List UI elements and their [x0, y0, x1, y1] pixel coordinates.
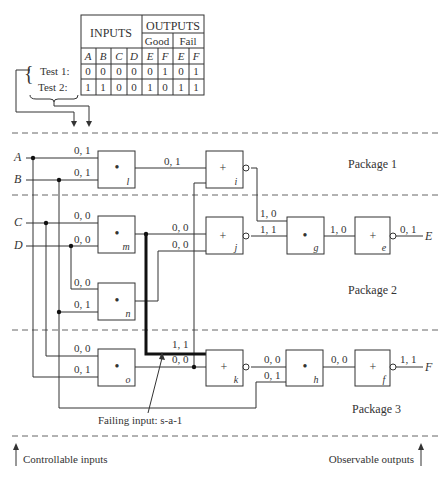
svg-text:•: • [115, 293, 120, 308]
svg-text:+: + [220, 229, 227, 243]
svg-text:0: 0 [85, 65, 91, 77]
svg-text:1, 1: 1, 1 [260, 223, 277, 235]
input-C: C [14, 215, 23, 229]
gate-f: + f [355, 350, 396, 386]
outputs-header: OUTPUTS [146, 19, 200, 33]
arrow-up-icon [418, 443, 424, 450]
svg-text:0, 0: 0, 0 [74, 233, 91, 245]
svg-text:1: 1 [193, 81, 199, 93]
svg-text:k: k [234, 374, 239, 385]
svg-text:0, 0: 0, 0 [172, 221, 189, 233]
svg-text:0: 0 [147, 65, 153, 77]
svg-text:0, 1: 0, 1 [74, 298, 91, 310]
svg-text:0, 1: 0, 1 [264, 369, 281, 381]
controllable-inputs-label: Controllable inputs [23, 453, 108, 465]
svg-text:•: • [303, 228, 308, 243]
svg-text:0, 0: 0, 0 [264, 353, 281, 365]
svg-text:B: B [100, 50, 107, 62]
svg-text:h: h [314, 374, 319, 385]
svg-text:l: l [127, 176, 130, 187]
svg-text:g: g [314, 242, 319, 253]
svg-text:0, 1: 0, 1 [74, 363, 91, 375]
svg-text:0, 1: 0, 1 [74, 166, 91, 178]
good-header: Good [145, 35, 170, 47]
svg-text:o: o [126, 374, 131, 385]
brace-icon: { [24, 62, 34, 84]
test2-label: Test 2: [38, 81, 67, 93]
svg-text:F: F [161, 50, 169, 62]
inputs-header: INPUTS [90, 26, 132, 40]
svg-text:•: • [115, 226, 120, 241]
observable-outputs-label: Observable outputs [329, 453, 414, 465]
arrow-down-icon [71, 121, 77, 127]
svg-text:1, 1: 1, 1 [172, 338, 189, 350]
svg-text:0, 0: 0, 0 [74, 342, 91, 354]
test-table: INPUTS OUTPUTS Good Fail A B C D E F E F… [16, 15, 204, 127]
svg-text:1, 1: 1, 1 [400, 353, 417, 365]
svg-text:1, 0: 1, 0 [260, 207, 277, 219]
svg-text:i: i [235, 176, 238, 187]
gate-g: • g [287, 217, 324, 254]
gate-l: • l [98, 151, 135, 188]
package-2-label: Package 2 [348, 283, 397, 297]
svg-text:+: + [370, 229, 377, 243]
gate-i: + i [206, 151, 249, 188]
svg-text:0, 0: 0, 0 [74, 276, 91, 288]
svg-text:•: • [303, 359, 308, 374]
svg-text:C: C [115, 50, 123, 62]
svg-text:+: + [220, 161, 227, 175]
svg-text:E: E [146, 50, 154, 62]
svg-text:1: 1 [178, 81, 184, 93]
arrow-down-icon [86, 121, 92, 127]
output-F: F [424, 360, 433, 374]
arrow-up-icon [13, 443, 19, 450]
svg-text:1: 1 [162, 65, 168, 77]
svg-text:•: • [115, 359, 120, 374]
svg-text:n: n [126, 308, 131, 319]
fail-header: Fail [179, 35, 196, 47]
package-1-label: Package 1 [348, 157, 397, 171]
fault-diagnosis-diagram: INPUTS OUTPUTS Good Fail A B C D E F E F… [0, 0, 442, 478]
svg-text:+: + [221, 360, 228, 374]
svg-text:1: 1 [100, 81, 106, 93]
svg-text:0: 0 [116, 65, 122, 77]
package-3-label: Package 3 [352, 402, 401, 416]
gate-j: + j [206, 217, 249, 254]
gate-k: + k [206, 350, 249, 386]
output-E: E [424, 229, 433, 243]
svg-text:D: D [129, 50, 138, 62]
svg-text:m: m [122, 241, 129, 252]
svg-text:0, 0: 0, 0 [172, 353, 189, 365]
faulty-path [146, 234, 206, 354]
test1-label: Test 1: [40, 65, 69, 77]
gate-n: • n [98, 283, 135, 320]
svg-text:0, 1: 0, 1 [74, 144, 91, 156]
input-D: D [13, 238, 23, 252]
svg-text:0: 0 [131, 65, 137, 77]
gate-m: • m [98, 216, 135, 253]
svg-text:0: 0 [178, 65, 184, 77]
svg-text:0, 0: 0, 0 [331, 353, 348, 365]
gate-o: • o [98, 349, 135, 386]
input-A: A [13, 150, 22, 164]
svg-text:0, 1: 0, 1 [400, 223, 417, 235]
svg-text:+: + [370, 360, 377, 374]
svg-text:A: A [84, 50, 92, 62]
svg-text:0, 1: 0, 1 [164, 155, 181, 167]
svg-text:0: 0 [116, 81, 122, 93]
svg-text:E: E [177, 50, 185, 62]
svg-text:•: • [115, 160, 120, 175]
svg-text:0: 0 [100, 65, 106, 77]
svg-text:0, 0: 0, 0 [74, 209, 91, 221]
svg-text:1: 1 [85, 81, 91, 93]
gate-h: • h [286, 350, 323, 386]
svg-text:1: 1 [147, 81, 153, 93]
svg-text:1: 1 [193, 65, 199, 77]
input-B: B [14, 172, 22, 186]
svg-text:e: e [382, 242, 387, 253]
svg-text:0: 0 [131, 81, 137, 93]
svg-text:0: 0 [162, 81, 168, 93]
svg-text:F: F [192, 50, 200, 62]
failing-input-annotation: Failing input: s-a-1 [98, 414, 182, 426]
gate-e: + e [355, 217, 396, 254]
